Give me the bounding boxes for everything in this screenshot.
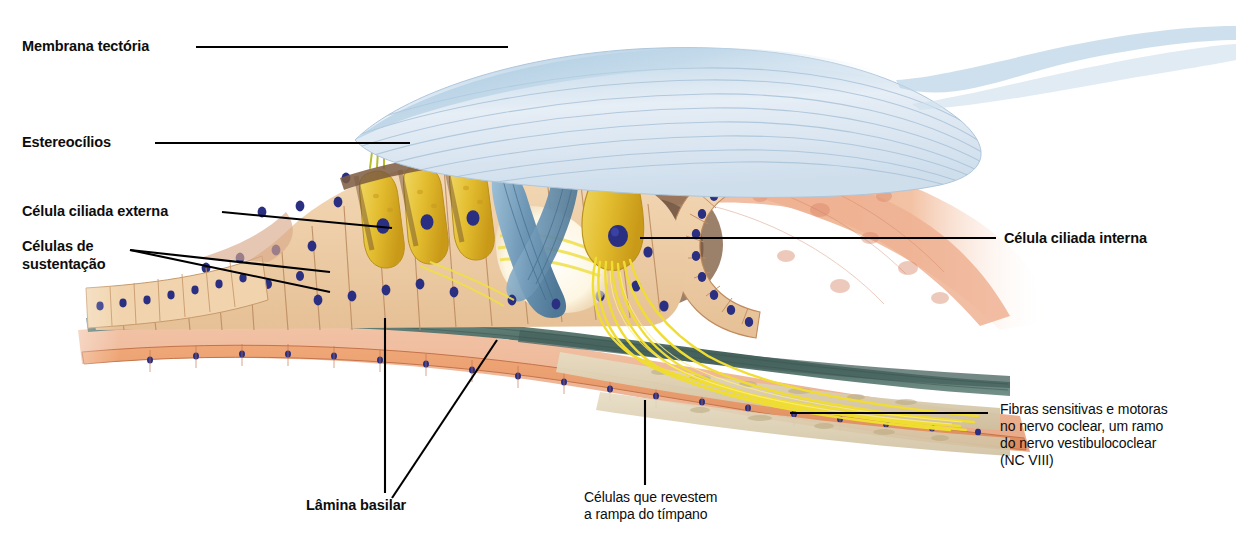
label-fibras-nervo-coclear: Fibras sensitivas e motoras no nervo coc… <box>1000 401 1168 469</box>
label-celulas-de-sustentacao: Células de sustentação <box>22 238 106 273</box>
label-celula-ciliada-interna: Célula ciliada interna <box>1004 230 1147 248</box>
figure-canvas: Membrana tectória Estereocílios Célula c… <box>0 0 1236 546</box>
label-celula-ciliada-externa: Célula ciliada externa <box>22 203 168 221</box>
label-estereocilios: Estereocílios <box>22 134 111 152</box>
label-lamina-basilar: Lâmina basilar <box>306 497 406 515</box>
label-membrana-tectoria: Membrana tectória <box>22 38 149 56</box>
label-celulas-rampa-timpano: Células que revestem a rampa do tímpano <box>584 489 717 523</box>
